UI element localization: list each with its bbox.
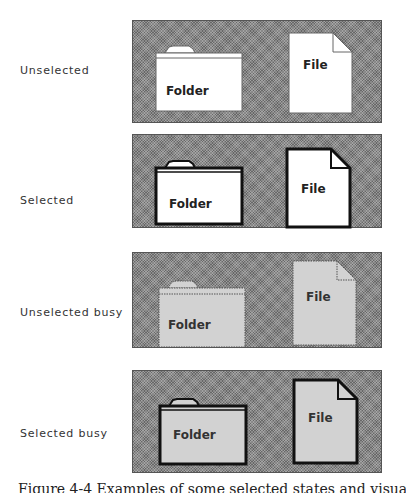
panel-unselected-busy: Folder File bbox=[132, 252, 382, 348]
row-label-selected: Selected bbox=[20, 194, 74, 207]
folder-label: Folder bbox=[173, 428, 216, 442]
folder-icon bbox=[155, 33, 245, 113]
folder-icon bbox=[155, 150, 245, 225]
folder-icon bbox=[158, 268, 248, 348]
row-label-unselected: Unselected bbox=[20, 64, 89, 77]
file-icon bbox=[288, 32, 354, 114]
folder-label: Folder bbox=[169, 197, 212, 211]
panel-selected-busy: Folder File bbox=[132, 370, 382, 473]
figure-caption: Figure 4-4 Examples of some selected sta… bbox=[18, 481, 406, 493]
file-label: File bbox=[301, 182, 326, 196]
file-label: File bbox=[308, 411, 333, 425]
row-label-selected-busy: Selected busy bbox=[20, 427, 108, 440]
panel-unselected: Folder File bbox=[132, 20, 382, 123]
folder-label: Folder bbox=[168, 318, 211, 332]
folder-label: Folder bbox=[166, 84, 209, 98]
row-label-unselected-busy: Unselected busy bbox=[20, 306, 123, 319]
panel-selected: Folder File bbox=[132, 134, 382, 228]
file-label: File bbox=[303, 58, 328, 72]
file-label: File bbox=[306, 290, 331, 304]
folder-icon bbox=[159, 386, 249, 466]
